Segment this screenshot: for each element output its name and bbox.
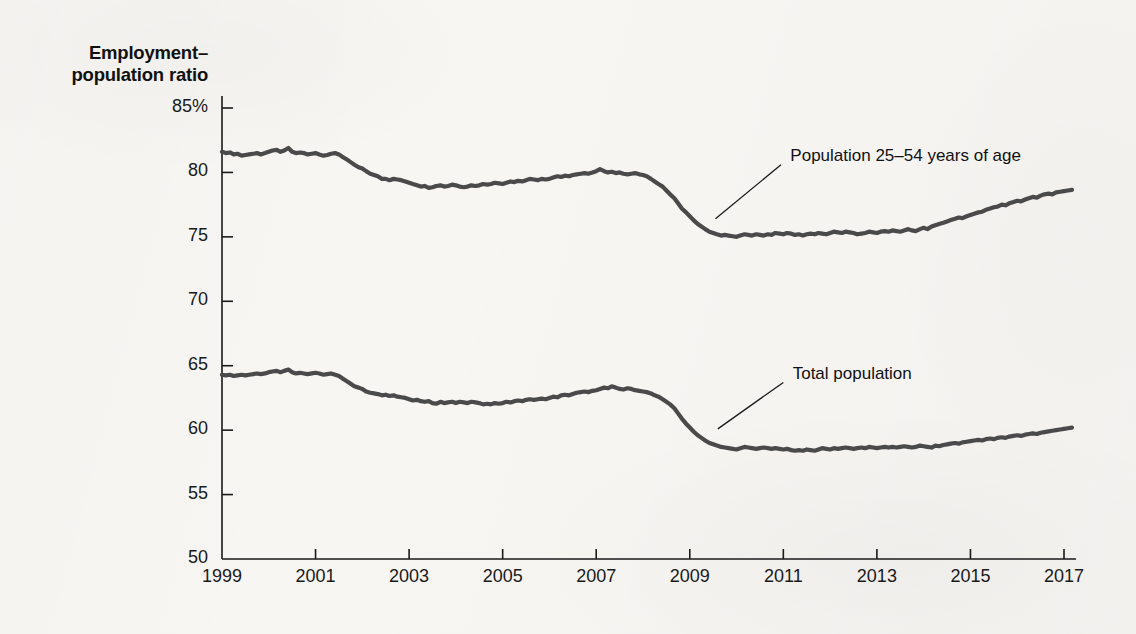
y-tick-label: 55 bbox=[188, 483, 208, 504]
chart-plot-area bbox=[0, 0, 1136, 634]
y-tick-label: 75 bbox=[188, 225, 208, 246]
chart-figure: Employment– population ratio 50556065707… bbox=[0, 0, 1136, 634]
x-axis-ticks bbox=[316, 549, 1064, 559]
total-population-label-leader-line bbox=[718, 382, 783, 428]
series-line-2 bbox=[222, 370, 1072, 451]
total-population-label: Total population bbox=[793, 364, 912, 384]
y-axis-ticks bbox=[222, 108, 233, 495]
prime-age-label-leader-line bbox=[716, 165, 781, 219]
prime-age-label: Population 25–54 years of age bbox=[790, 146, 1021, 166]
x-tick-label: 2017 bbox=[1004, 566, 1124, 587]
y-tick-label: 70 bbox=[188, 289, 208, 310]
y-tick-label: 60 bbox=[188, 418, 208, 439]
y-tick-label: 65 bbox=[188, 354, 208, 375]
y-tick-label: 50 bbox=[188, 547, 208, 568]
y-tick-label: 80 bbox=[188, 160, 208, 181]
y-tick-label: 85% bbox=[172, 96, 208, 117]
